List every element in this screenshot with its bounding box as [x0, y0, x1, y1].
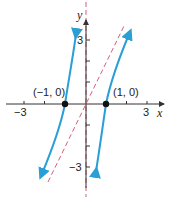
x-tick-label-neg3: −3 — [14, 106, 27, 118]
point-neg1-0 — [62, 101, 68, 107]
graph: y x −3 3 3 −3 (−1, 0) (1, 0) — [0, 0, 170, 199]
y-axis-label: y — [76, 8, 83, 22]
y-tick-label-3: 3 — [77, 34, 83, 46]
y-tick-label-neg3: −3 — [69, 161, 82, 173]
point-label-neg1-0: (−1, 0) — [33, 86, 65, 98]
point-1-0 — [103, 101, 109, 107]
point-label-1-0: (1, 0) — [113, 86, 139, 98]
curve-left-branch — [41, 36, 76, 176]
x-axis-label: x — [156, 106, 163, 120]
x-tick-label-3: 3 — [143, 106, 149, 118]
curve-right-branch — [96, 32, 130, 170]
